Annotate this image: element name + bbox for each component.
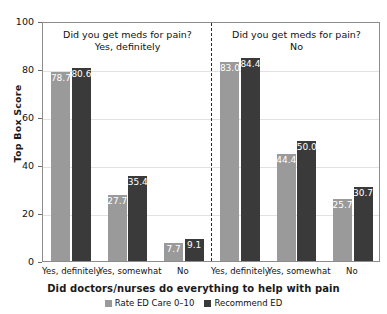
panel-title: Did you get meds for pain? No bbox=[212, 29, 381, 52]
bar: 7.7 bbox=[164, 243, 183, 261]
legend-label: Recommend ED bbox=[214, 298, 282, 308]
x-axis-tick-label: Yes, definitely bbox=[211, 267, 267, 276]
bar: 50.0 bbox=[297, 141, 316, 261]
bar: 30.7 bbox=[354, 187, 373, 261]
bar-value-label: 83.0 bbox=[220, 64, 240, 73]
y-axis-tick-mark bbox=[38, 262, 42, 263]
y-axis-tick-label: 20 bbox=[8, 209, 34, 219]
bar-value-label: 50.0 bbox=[297, 143, 317, 152]
bar: 27.7 bbox=[108, 195, 127, 261]
legend-entry: Recommend ED bbox=[204, 298, 282, 308]
bar-value-label: 7.7 bbox=[166, 245, 180, 254]
x-axis-tick-label: Yes, definitely bbox=[42, 267, 98, 276]
x-axis-tick-label: Yes, somewhat bbox=[267, 267, 323, 276]
bar: 35.4 bbox=[128, 176, 147, 261]
bar-chart: Top Box Score 020406080100 Did you get m… bbox=[0, 0, 387, 314]
plot-area: Did you get meds for pain? Yes, definite… bbox=[42, 22, 380, 262]
x-axis-tick-label: No bbox=[155, 267, 211, 276]
bar: 78.7 bbox=[51, 72, 70, 261]
x-axis-tick-label: No bbox=[324, 267, 380, 276]
bar-value-label: 27.7 bbox=[107, 197, 127, 206]
bar: 83.0 bbox=[220, 62, 239, 261]
bar-value-label: 80.6 bbox=[71, 70, 91, 79]
legend-swatch-icon bbox=[204, 300, 211, 307]
bar: 25.7 bbox=[333, 199, 352, 261]
y-axis-tick-label: 100 bbox=[8, 17, 34, 27]
y-axis-tick-label: 80 bbox=[8, 65, 34, 75]
bar-value-label: 35.4 bbox=[128, 178, 148, 187]
bar: 9.1 bbox=[185, 239, 204, 261]
bar: 80.6 bbox=[72, 68, 91, 261]
panel-divider bbox=[211, 23, 212, 261]
legend-label: Rate ED Care 0–10 bbox=[115, 298, 195, 308]
y-axis-tick-label: 0 bbox=[8, 257, 34, 267]
x-axis-title: Did doctors/nurses do everything to help… bbox=[0, 283, 387, 294]
y-axis-tick-label: 60 bbox=[8, 113, 34, 123]
panel-title: Did you get meds for pain? Yes, definite… bbox=[43, 29, 212, 52]
bar-value-label: 78.7 bbox=[51, 74, 71, 83]
bar-value-label: 9.1 bbox=[187, 241, 201, 250]
bar-value-label: 44.4 bbox=[276, 156, 296, 165]
bar-value-label: 84.4 bbox=[240, 60, 260, 69]
x-axis-tick-label: Yes, somewhat bbox=[98, 267, 154, 276]
bar: 44.4 bbox=[277, 154, 296, 261]
legend-entry: Rate ED Care 0–10 bbox=[105, 298, 195, 308]
legend-swatch-icon bbox=[105, 300, 112, 307]
y-axis-tick-label: 40 bbox=[8, 161, 34, 171]
bar-value-label: 30.7 bbox=[353, 189, 373, 198]
chart-legend: Rate ED Care 0–10Recommend ED bbox=[0, 298, 387, 308]
bar: 84.4 bbox=[241, 58, 260, 261]
bar-value-label: 25.7 bbox=[333, 201, 353, 210]
